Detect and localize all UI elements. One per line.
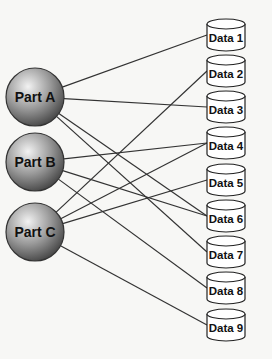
data-store-label: Data 5 <box>209 177 244 189</box>
data-store-label: Data 2 <box>209 68 244 80</box>
part-label: Part B <box>14 154 55 170</box>
data-store-4[interactable]: Data 4 <box>207 127 245 159</box>
data-store-label: Data 8 <box>209 285 244 297</box>
connection-line-C-4 <box>61 143 207 219</box>
data-store-3[interactable]: Data 3 <box>207 91 245 123</box>
connection-diagram: Data 1Data 2Data 3Data 4Data 5Data 6Data… <box>0 0 272 359</box>
part-label: Part C <box>14 224 55 240</box>
data-store-6[interactable]: Data 6 <box>207 200 245 232</box>
connection-lines <box>56 35 207 325</box>
connection-line-B-8 <box>58 179 207 288</box>
connection-line-A-3 <box>64 99 207 107</box>
parts: Part APart BPart C <box>6 68 64 261</box>
connection-line-B-4 <box>64 143 207 159</box>
data-stores: Data 1Data 2Data 3Data 4Data 5Data 6Data… <box>207 19 245 341</box>
data-store-8[interactable]: Data 8 <box>207 272 245 304</box>
data-store-9[interactable]: Data 9 <box>207 309 245 341</box>
part-a-node[interactable]: Part A <box>6 68 64 126</box>
data-store-label: Data 4 <box>209 140 244 152</box>
connection-line-C-9 <box>61 246 207 325</box>
connection-line-C-2 <box>56 71 207 212</box>
connection-line-B-6 <box>63 171 207 216</box>
part-c-node[interactable]: Part C <box>6 203 64 261</box>
data-store-1[interactable]: Data 1 <box>207 19 245 51</box>
data-store-label: Data 1 <box>209 32 244 44</box>
data-store-7[interactable]: Data 7 <box>207 236 245 268</box>
data-store-5[interactable]: Data 5 <box>207 164 245 196</box>
data-store-2[interactable]: Data 2 <box>207 55 245 87</box>
part-b-node[interactable]: Part B <box>6 133 64 191</box>
data-store-label: Data 7 <box>209 249 244 261</box>
connection-line-A-6 <box>59 113 207 216</box>
part-label: Part A <box>15 89 56 105</box>
connection-line-A-1 <box>62 35 207 87</box>
data-store-label: Data 6 <box>209 213 244 225</box>
connection-line-A-7 <box>57 116 207 252</box>
data-store-label: Data 9 <box>209 322 244 334</box>
data-store-label: Data 3 <box>209 104 244 116</box>
